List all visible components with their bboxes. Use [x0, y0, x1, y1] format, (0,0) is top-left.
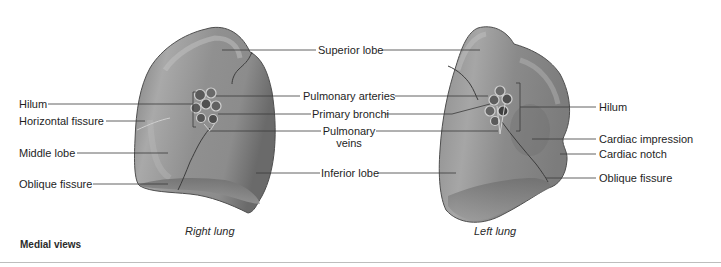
label-cardiac-notch: Cardiac notch: [599, 148, 667, 160]
label-left-hilum: Hilum: [599, 101, 627, 113]
lungs-medial-view-figure: Hilum Horizontal fissure Middle lobe Obl…: [0, 0, 721, 267]
right-lung-shape: [135, 27, 276, 213]
label-pulmonary-veins-line1: Pulmonary: [322, 125, 376, 137]
caption-left-lung: Left lung: [474, 225, 516, 237]
caption-right-lung: Right lung: [185, 225, 235, 237]
left-lung-shape: [439, 27, 569, 222]
label-inferior-lobe: Inferior lobe: [321, 167, 379, 179]
label-right-hilum: Hilum: [19, 98, 47, 110]
label-horizontal-fissure: Horizontal fissure: [19, 115, 104, 127]
bottom-divider: [0, 262, 721, 263]
label-primary-bronchi: Primary bronchi: [312, 108, 389, 120]
label-middle-lobe: Middle lobe: [19, 147, 75, 159]
label-pulmonary-arteries: Pulmonary arteries: [303, 90, 395, 102]
label-pulmonary-veins-line2: veins: [322, 137, 376, 149]
label-right-oblique-fissure: Oblique fissure: [19, 178, 92, 190]
label-pulmonary-veins: Pulmonary veins: [322, 125, 376, 149]
label-superior-lobe: Superior lobe: [318, 44, 383, 56]
label-cardiac-impression: Cardiac impression: [599, 133, 693, 145]
view-title-medial-views: Medial views: [20, 239, 81, 250]
label-left-oblique-fissure: Oblique fissure: [599, 172, 672, 184]
